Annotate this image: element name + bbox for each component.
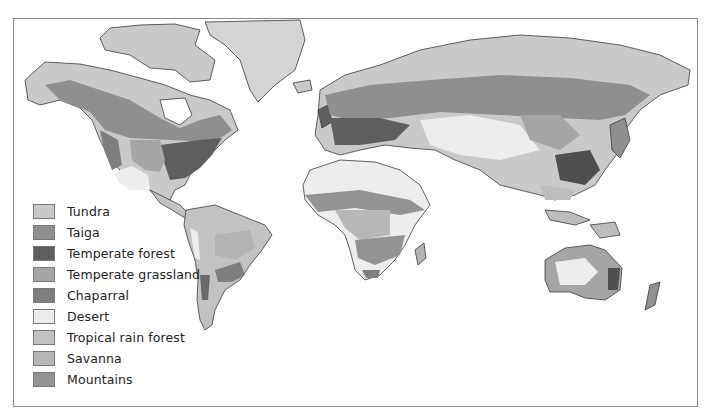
legend: Tundra Taiga Temperate forest Temperate … — [33, 201, 200, 390]
legend-item-desert: Desert — [33, 306, 200, 327]
legend-label: Desert — [67, 309, 109, 324]
legend-item-temperate-forest: Temperate forest — [33, 243, 200, 264]
swatch-tundra — [33, 204, 55, 219]
swatch-taiga — [33, 225, 55, 240]
legend-label: Chaparral — [67, 288, 129, 303]
swatch-temperate-grassland — [33, 267, 55, 282]
swatch-desert — [33, 309, 55, 324]
swatch-tropical-rain-forest — [33, 330, 55, 345]
legend-item-taiga: Taiga — [33, 222, 200, 243]
swatch-chaparral — [33, 288, 55, 303]
swatch-savanna — [33, 351, 55, 366]
indonesia — [545, 210, 590, 225]
legend-item-mountains: Mountains — [33, 369, 200, 390]
greenland — [205, 20, 305, 102]
legend-label: Temperate forest — [67, 246, 175, 261]
new-guinea — [590, 222, 620, 238]
na-temperate-forest — [160, 138, 222, 180]
legend-label: Temperate grassland — [67, 267, 200, 282]
legend-label: Taiga — [67, 225, 100, 240]
legend-label: Savanna — [67, 351, 122, 366]
legend-label: Mountains — [67, 372, 133, 387]
madagascar — [415, 243, 426, 265]
aus-temperate-forest — [608, 268, 620, 290]
swatch-mountains — [33, 372, 55, 387]
new-zealand — [645, 282, 660, 310]
iceland — [293, 80, 312, 93]
legend-item-savanna: Savanna — [33, 348, 200, 369]
legend-item-temperate-grassland: Temperate grassland — [33, 264, 200, 285]
swatch-temperate-forest — [33, 246, 55, 261]
legend-item-tropical-rain-forest: Tropical rain forest — [33, 327, 200, 348]
legend-item-tundra: Tundra — [33, 201, 200, 222]
legend-item-chaparral: Chaparral — [33, 285, 200, 306]
legend-label: Tropical rain forest — [67, 330, 185, 345]
legend-label: Tundra — [67, 204, 110, 219]
